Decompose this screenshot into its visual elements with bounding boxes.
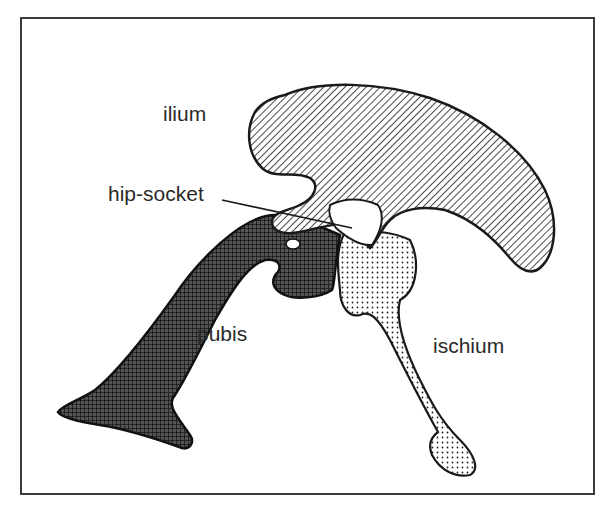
pelvis-diagram [0,0,614,521]
label-ilium: ilium [163,103,206,124]
label-hip-socket: hip-socket [108,183,204,204]
label-pubis: pubis [197,323,247,344]
foramen-hole [286,239,300,249]
label-ischium: ischium [433,335,504,356]
